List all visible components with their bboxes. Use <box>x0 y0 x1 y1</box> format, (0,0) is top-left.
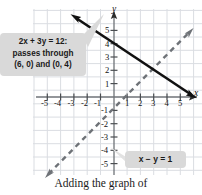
xtick-label: -5 <box>41 98 48 108</box>
ytick-label: 4 <box>105 39 109 49</box>
xtick-label: 4 <box>165 98 169 108</box>
xtick-label: 3 <box>151 98 155 108</box>
xtick-label: -2 <box>81 98 88 108</box>
y-axis-label: y <box>112 4 116 14</box>
solid-line-2x-plus-3y-equals-12 <box>71 14 197 98</box>
callout-line: passes through <box>4 48 82 60</box>
ytick-label: 1 <box>105 79 109 89</box>
ytick-label: 5 <box>105 25 109 35</box>
ytick-label: 3 <box>105 52 109 62</box>
xtick-label: -3 <box>68 98 75 108</box>
callout-equation-2: x − y = 1 <box>125 151 186 168</box>
ytick-label: -1 <box>101 105 108 115</box>
xtick-label: 5 <box>178 98 182 108</box>
callout-equation-1: 2x + 3y = 12: passes through (6, 0) and … <box>0 33 86 76</box>
figure-caption: Adding the graph of <box>0 177 202 189</box>
callout-line: (6, 0) and (0, 4) <box>4 59 82 71</box>
xtick-label: 2 <box>138 98 142 108</box>
callout-line: 2x + 3y = 12: <box>4 36 82 48</box>
ytick-label: -3 <box>101 132 108 142</box>
ytick-label: 2 <box>105 65 109 75</box>
ytick-label: -5 <box>101 159 108 169</box>
x-axis-label: x <box>194 88 198 98</box>
xtick-label: -4 <box>54 98 61 108</box>
ytick-label: -4 <box>101 145 108 155</box>
ytick-label: -2 <box>101 119 108 129</box>
callout-line: x − y = 1 <box>139 154 173 166</box>
graph-figure: -5 -4 -3 -2 -1 1 2 3 4 5 5 4 3 2 1 -1 -2… <box>0 0 202 195</box>
xtick-label: 1 <box>125 98 129 108</box>
